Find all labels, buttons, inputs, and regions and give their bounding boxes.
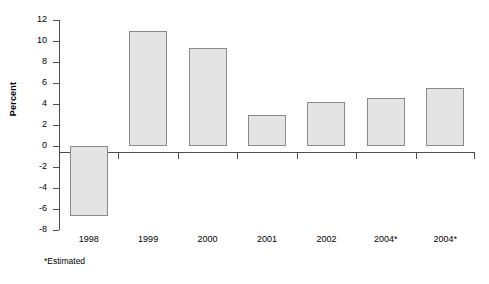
x-tick <box>416 152 417 159</box>
x-tick <box>237 152 238 159</box>
x-tick-label: 2002 <box>297 234 356 245</box>
y-tick <box>53 146 59 147</box>
y-tick-label: 10 <box>13 36 47 45</box>
x-tick-label: 2004* <box>356 234 415 245</box>
x-tick <box>297 152 298 159</box>
y-tick-label: -4 <box>13 183 47 192</box>
bar <box>248 115 286 147</box>
y-tick <box>53 230 59 231</box>
x-tick <box>356 152 357 159</box>
x-tick <box>118 152 119 159</box>
y-tick-label: -2 <box>13 162 47 171</box>
bar-chart: Percent 121086420-2-4-6-8 19981999200020… <box>0 0 489 284</box>
bar <box>189 48 227 146</box>
y-tick-label: 12 <box>13 15 47 24</box>
y-tick <box>53 83 59 84</box>
y-tick <box>53 62 59 63</box>
y-tick <box>53 188 59 189</box>
plot-area <box>59 20 475 230</box>
x-tick-label: 1999 <box>118 234 177 245</box>
y-tick-label: -6 <box>13 204 47 213</box>
y-tick <box>53 167 59 168</box>
y-tick-label: 6 <box>13 78 47 87</box>
y-tick <box>53 104 59 105</box>
x-tick <box>474 152 475 159</box>
bar <box>307 102 345 146</box>
bar <box>426 88 464 146</box>
x-tick <box>59 152 60 159</box>
y-tick <box>53 209 59 210</box>
x-tick <box>178 152 179 159</box>
x-tick-label: 2004* <box>416 234 475 245</box>
y-tick <box>53 20 59 21</box>
y-tick-label: 8 <box>13 57 47 66</box>
x-tick-label: 1998 <box>59 234 118 245</box>
y-tick-label: -8 <box>13 225 47 234</box>
bar <box>367 98 405 146</box>
y-tick <box>53 125 59 126</box>
y-tick <box>53 41 59 42</box>
chart-footnote: *Estimated <box>44 256 85 266</box>
y-tick-label: 4 <box>13 99 47 108</box>
y-axis-line <box>59 20 60 230</box>
y-tick-label: 0 <box>13 141 47 150</box>
y-axis-tick-labels: 121086420-2-4-6-8 <box>13 20 47 230</box>
x-tick-label: 2001 <box>237 234 296 245</box>
x-axis-tick-labels: 199819992000200120022004*2004* <box>59 234 475 248</box>
bar <box>70 146 108 216</box>
x-tick-label: 2000 <box>178 234 237 245</box>
zero-baseline <box>59 152 475 153</box>
y-tick-label: 2 <box>13 120 47 129</box>
bar <box>129 31 167 147</box>
